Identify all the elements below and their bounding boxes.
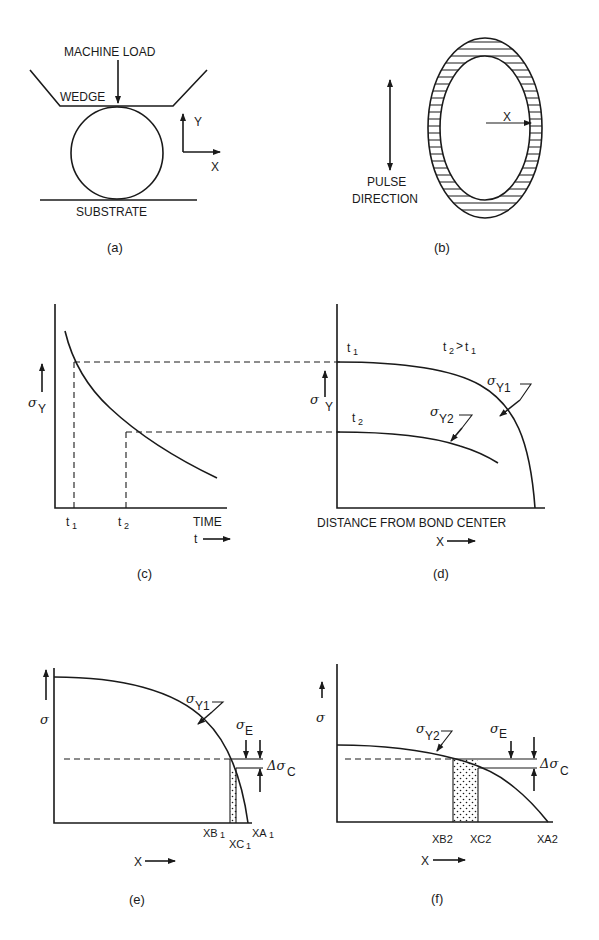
sigma-y2-curve	[337, 745, 548, 822]
delta-sigma-c-sub: C	[560, 764, 569, 778]
axes-f	[337, 664, 553, 822]
sigma-y2-pointer-icon	[451, 428, 462, 441]
axes-e	[54, 668, 252, 823]
pulse-label-line2: DIRECTION	[352, 192, 418, 206]
y-axis-sigma: σ	[28, 395, 38, 410]
shaded-region-f	[453, 759, 478, 822]
wedge-label: WEDGE	[60, 90, 105, 104]
xb1-sub: 1	[220, 830, 225, 840]
svg-text:2: 2	[449, 346, 454, 356]
svg-text:1: 1	[471, 346, 476, 356]
outer-ellipse	[428, 38, 542, 218]
pulse-label-line1: PULSE	[367, 175, 406, 189]
label-t1-sub: 1	[353, 347, 358, 357]
panel-c: σ Y t 1 t 2 TIME t (c)	[28, 304, 340, 581]
xc1-label: XC	[229, 838, 244, 850]
sigma-y1-leader	[212, 702, 223, 712]
y-axis-sub: Y	[325, 400, 333, 414]
x-axis-title: TIME	[193, 515, 222, 529]
xb2-label: XB2	[432, 833, 453, 845]
y-axis-sigma: σ	[310, 392, 320, 407]
sigma-y1-pointer-icon	[198, 712, 212, 724]
machine-load-label: MACHINE LOAD	[64, 45, 156, 59]
x-axis-title: DISTANCE FROM BOND CENTER	[317, 516, 506, 530]
axis-y-label: Y	[194, 115, 202, 129]
radius-x-label: X	[503, 110, 511, 124]
tick-t2: t	[118, 515, 122, 529]
sigma-y2-pointer-icon	[437, 744, 442, 751]
sigma-y2-leader	[459, 415, 472, 428]
xa1-label: XA	[252, 827, 267, 839]
y-axis-sigma: σ	[316, 710, 326, 725]
sigma-y1-sub: Y1	[496, 381, 511, 395]
axis-x-label: X	[211, 160, 219, 174]
sigma-y1-curve	[54, 677, 248, 823]
sigma-y2-leader	[441, 731, 452, 744]
y-axis-sigma: σ	[40, 712, 50, 727]
xa1-sub: 1	[269, 830, 274, 840]
sigma-y1-leader	[520, 384, 531, 400]
label-t1: t	[347, 341, 351, 355]
xa2-label: XA2	[537, 833, 558, 845]
sigma-y2-sub: Y2	[425, 729, 440, 743]
figure-canvas: MACHINE LOAD WEDGE SUBSTRATE Y X (a)	[0, 0, 599, 940]
relation-label: t 2 > t 1	[443, 339, 476, 356]
label-t2-sub: 2	[358, 417, 363, 427]
axes-c	[55, 304, 227, 508]
panel-b: X PULSE DIRECTION (b)	[352, 36, 550, 255]
axes-d	[337, 304, 545, 508]
delta-sigma-c-label: Δσ	[266, 758, 286, 773]
panel-d: σ Y t 1 t 2 t 2 > t 1 σ Y1 σ Y2 DISTANCE…	[310, 304, 545, 581]
x-arrow-label: X	[421, 854, 429, 868]
svg-text:t: t	[443, 340, 447, 354]
sigma-y2-sub: Y2	[439, 412, 454, 426]
wire-cross-section	[71, 107, 163, 199]
xb1-label: XB	[203, 827, 218, 839]
caption-c: (c)	[137, 566, 152, 581]
tick-t1-sub: 1	[72, 521, 77, 531]
svg-text:t: t	[465, 340, 469, 354]
delta-sigma-c-sub: C	[287, 765, 296, 779]
sigma-y1-sub: Y1	[195, 699, 210, 713]
caption-a: (a)	[107, 240, 123, 255]
xc1-sub: 1	[246, 841, 251, 851]
sigma-e-sub: E	[245, 724, 253, 738]
caption-e: (e)	[129, 892, 145, 907]
caption-f: (f)	[431, 891, 443, 906]
panel-f: σ σ Y2 σ E Δσ C XB2 XC2 XA2 X (f)	[316, 664, 569, 906]
sigma-y-decay-curve	[65, 331, 217, 478]
tick-t1: t	[66, 515, 70, 529]
panel-a: MACHINE LOAD WEDGE SUBSTRATE Y X (a)	[30, 45, 220, 255]
sigma-y2-curve	[337, 432, 498, 463]
xc2-label: XC2	[470, 833, 491, 845]
delta-sigma-c-label: Δσ	[539, 756, 559, 771]
inner-ellipse	[440, 56, 530, 200]
svg-text:>: >	[456, 339, 463, 353]
panel-e: σ σ Y1 σ E Δσ C XB 1 XC 1 XA 1 X (e)	[40, 668, 296, 907]
y-axis-sub: Y	[38, 402, 46, 416]
x-arrow-label: t	[194, 532, 198, 546]
x-arrow-label: X	[134, 855, 142, 869]
sigma-e-sub: E	[499, 727, 507, 741]
caption-d: (d)	[433, 566, 449, 581]
x-arrow-label: X	[436, 535, 444, 549]
tick-t2-sub: 2	[124, 521, 129, 531]
label-t2: t	[352, 411, 356, 425]
caption-b: (b)	[434, 240, 450, 255]
substrate-label: SUBSTRATE	[76, 205, 147, 219]
